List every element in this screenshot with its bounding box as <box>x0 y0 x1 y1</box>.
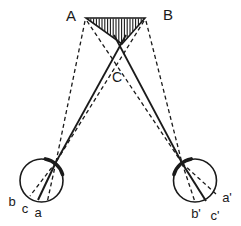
sight-line-A-to-left-eye <box>56 21 85 162</box>
label-retina-a-prime: a' <box>222 190 232 205</box>
binocular-vision-diagram: A B C b c a b' c' a' <box>0 0 241 226</box>
label-retina-c-prime: c' <box>211 208 220 223</box>
label-point-A: A <box>66 7 76 24</box>
sight-line-B-to-right-eye <box>146 21 182 163</box>
label-retina-b-prime: b' <box>191 206 201 221</box>
diagram-geometry <box>20 18 217 203</box>
right-eye-gaze-line-to-C <box>114 35 182 163</box>
right-eye-retina-line-c <box>182 163 206 201</box>
label-retina-c: c <box>22 201 29 216</box>
label-point-B: B <box>163 6 173 23</box>
sight-line-B-to-left-eye <box>56 21 144 162</box>
label-retina-b: b <box>8 194 15 209</box>
left-eye-gaze-line-to-C <box>56 35 126 162</box>
sight-line-A-to-right-eye <box>87 21 182 163</box>
figure-canvas: A B C b c a b' c' a' <box>0 0 241 226</box>
label-retina-a: a <box>34 205 42 220</box>
label-point-C: C <box>112 69 122 85</box>
